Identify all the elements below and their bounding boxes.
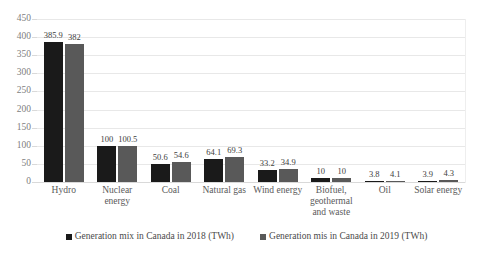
y-tick-label: 400 (0, 32, 31, 42)
bar[interactable] (65, 44, 84, 182)
legend-swatch-icon (66, 234, 72, 240)
bar[interactable] (258, 170, 277, 182)
x-axis-labels: HydroNuclearenergyCoalNatural gasWind en… (37, 185, 465, 219)
x-axis-label-line: Hydro (38, 185, 90, 196)
x-axis-label-line: energy (92, 196, 144, 207)
bar-value-label: 4.1 (390, 170, 401, 179)
bar-slot: 4.3 (439, 19, 458, 182)
bar-slot: 382 (65, 19, 84, 182)
bar[interactable] (279, 169, 298, 182)
bar[interactable] (311, 178, 330, 182)
x-axis-label: Natural gas (198, 185, 252, 219)
bar-value-label: 385.9 (44, 31, 63, 40)
bar[interactable] (172, 162, 191, 182)
bar-slot: 33.2 (258, 19, 277, 182)
x-axis-label-line: Coal (145, 185, 197, 196)
bar-slot: 69.3 (225, 19, 244, 182)
bar-value-label: 4.3 (443, 169, 454, 178)
y-tick-label: 200 (0, 105, 31, 115)
x-axis-label: Hydro (37, 185, 91, 219)
bar-slot: 10 (332, 19, 351, 182)
bar[interactable] (97, 146, 116, 182)
legend-item[interactable]: Generation mis in Canada in 2019 (TWh) (260, 232, 427, 242)
y-tick-label: 50 (0, 159, 31, 169)
gridline (37, 182, 465, 183)
x-axis-label-line: Solar energy (413, 185, 465, 196)
bar-slot: 34.9 (279, 19, 298, 182)
bar[interactable] (204, 159, 223, 182)
bar-group: 385.9382 (37, 19, 91, 182)
bar-value-label: 54.6 (174, 151, 189, 160)
bar-slot: 100 (97, 19, 116, 182)
bar-group: 50.654.6 (144, 19, 198, 182)
bar-slot: 10 (311, 19, 330, 182)
bar-group: 3.84.1 (358, 19, 412, 182)
plot-area: 450400350300250200150100500 385.93821001… (37, 19, 465, 182)
y-tick-label: 150 (0, 123, 31, 133)
x-axis-label: Biofuel,geothermaland waste (305, 185, 359, 219)
y-tick-label: 0 (0, 177, 31, 187)
bar-value-label: 3.8 (369, 170, 380, 179)
bar-value-label: 100.5 (118, 135, 137, 144)
x-axis-label-line: Wind energy (252, 185, 304, 196)
chart-legend: Generation mix in Canada in 2018 (TWh)Ge… (0, 232, 493, 242)
x-axis-label: Nuclearenergy (91, 185, 145, 219)
bar-group: 1010 (305, 19, 359, 182)
y-tick-label: 250 (0, 87, 31, 97)
bar-slot: 3.9 (418, 19, 437, 182)
bar-slot: 3.8 (365, 19, 384, 182)
bar[interactable] (225, 157, 244, 182)
bar[interactable] (151, 164, 170, 182)
bar-slot: 54.6 (172, 19, 191, 182)
x-axis-label-line: geothermal (306, 196, 358, 207)
bar[interactable] (44, 42, 63, 182)
y-tick-label: 100 (0, 141, 31, 151)
bar-value-label: 10 (317, 167, 326, 176)
bar-slot: 4.1 (386, 19, 405, 182)
bar-group: 33.234.9 (251, 19, 305, 182)
y-tick-label: 300 (0, 69, 31, 79)
bar[interactable] (332, 178, 351, 182)
bar-slot: 385.9 (44, 19, 63, 182)
bar-value-label: 10 (338, 167, 347, 176)
y-tick-mark (32, 182, 37, 183)
bar[interactable] (418, 181, 437, 183)
legend-label: Generation mix in Canada in 2018 (TWh) (75, 232, 234, 242)
bar-value-label: 34.9 (281, 158, 296, 167)
y-tick-label: 350 (0, 50, 31, 60)
bar-slot: 50.6 (151, 19, 170, 182)
bar-group: 3.94.3 (412, 19, 466, 182)
legend-label: Generation mis in Canada in 2019 (TWh) (269, 232, 427, 242)
legend-swatch-icon (260, 234, 266, 240)
x-axis-label: Oil (358, 185, 412, 219)
x-axis-label-line: Natural gas (199, 185, 251, 196)
bar-slot: 64.1 (204, 19, 223, 182)
bar-chart: 450400350300250200150100500 385.93821001… (0, 0, 493, 260)
x-axis-label-line: and waste (306, 207, 358, 218)
bar-groups: 385.9382100100.550.654.664.169.333.234.9… (37, 19, 465, 182)
bar-value-label: 382 (68, 33, 81, 42)
x-axis-label: Coal (144, 185, 198, 219)
y-tick-label: 450 (0, 14, 31, 24)
bar-value-label: 64.1 (206, 148, 221, 157)
bar[interactable] (365, 181, 384, 183)
bar-value-label: 69.3 (227, 146, 242, 155)
bar-value-label: 33.2 (260, 159, 275, 168)
x-axis-label-line: Nuclear (92, 185, 144, 196)
bar-slot: 100.5 (118, 19, 137, 182)
bar-group: 100100.5 (91, 19, 145, 182)
x-axis-label-line: Oil (359, 185, 411, 196)
bar[interactable] (118, 146, 137, 182)
bar-group: 64.169.3 (198, 19, 252, 182)
bar[interactable] (386, 181, 405, 183)
legend-item[interactable]: Generation mix in Canada in 2018 (TWh) (66, 232, 234, 242)
bar-value-label: 3.9 (422, 170, 433, 179)
bar[interactable] (439, 180, 458, 182)
bar-value-label: 50.6 (153, 153, 168, 162)
x-axis-label: Wind energy (251, 185, 305, 219)
plot-right-border (465, 19, 466, 183)
x-axis-label-line: Biofuel, (306, 185, 358, 196)
bar-value-label: 100 (100, 135, 113, 144)
x-axis-label: Solar energy (412, 185, 466, 219)
